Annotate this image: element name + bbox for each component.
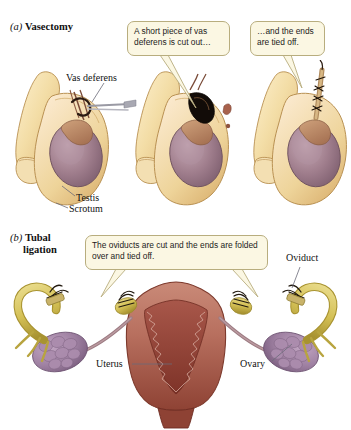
tubal-ligation-illustration <box>0 258 351 430</box>
cervix <box>158 408 194 428</box>
callout-vas-cut: A short piece of vas deferens is cut out… <box>127 21 230 56</box>
vasectomy-panel-1 <box>16 72 136 205</box>
vasectomy-panel-2 <box>136 72 231 205</box>
annotation-oviduct: Oviduct <box>286 252 318 263</box>
annotation-ovary: Ovary <box>240 358 265 369</box>
section-b-name: Tubal <box>25 232 51 243</box>
section-b-enumerator: (b) <box>10 232 22 243</box>
vasectomy-illustration <box>0 60 351 220</box>
cut-tube-right <box>228 291 254 317</box>
annotation-scrotum: Scrotum <box>69 203 103 214</box>
section-label-a: (a) Vasectomy <box>10 21 73 33</box>
figure-root: (a) Vasectomy (b) Tubal ligation Vas def… <box>0 0 351 430</box>
annotation-testis: Testis <box>76 192 99 203</box>
callout-ends-tied: …and the ends are tied off. <box>250 21 325 56</box>
annotation-vas-deferens: Vas deferens <box>66 72 117 83</box>
callout-oviducts-cut: The oviducts are cut and the ends are fo… <box>85 235 268 270</box>
section-a-name: Vasectomy <box>25 21 73 32</box>
section-b-name-line2: ligation <box>23 244 57 256</box>
vasectomy-panel-3 <box>254 60 347 205</box>
section-label-b: (b) Tubal ligation <box>10 232 57 255</box>
annotation-uterus: Uterus <box>96 358 123 369</box>
section-a-enumerator: (a) <box>10 21 22 32</box>
